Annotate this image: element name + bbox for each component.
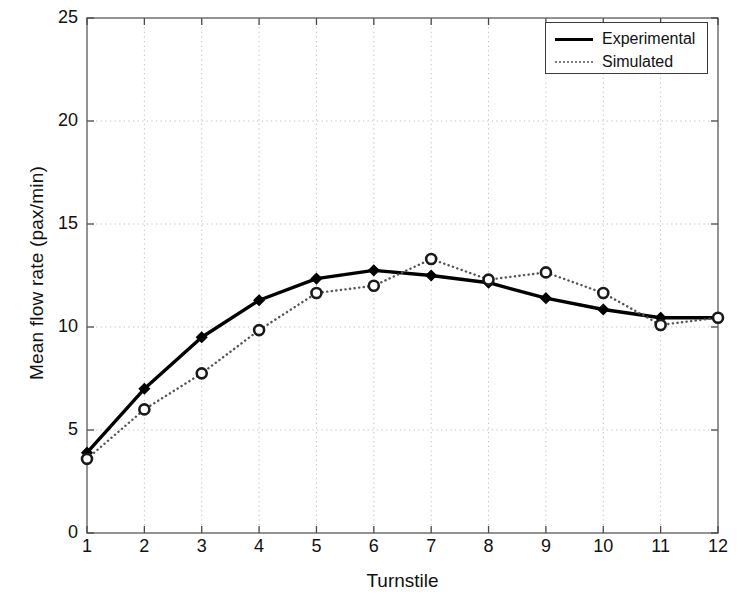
series-line-experimental (87, 270, 718, 452)
y-tick-label: 20 (38, 110, 78, 131)
y-tick-label: 5 (38, 419, 78, 440)
plot-area-container: 0510152025 123456789101112 Mean flow rat… (0, 0, 747, 604)
data-point-marker (426, 254, 436, 264)
x-axis-title: Turnstile (87, 570, 718, 592)
legend-item-experimental: Experimental (546, 27, 707, 50)
axes-frame (87, 18, 718, 533)
legend-item-simulated: Simulated (546, 50, 707, 73)
x-tick-label: 10 (583, 536, 623, 557)
data-point-marker (369, 265, 379, 275)
legend-label-experimental: Experimental (595, 30, 695, 48)
data-point-marker (139, 404, 149, 414)
x-tick-label: 9 (526, 536, 566, 557)
dotted-line-sample-icon (553, 56, 595, 68)
data-point-marker (598, 288, 608, 298)
data-point-marker (426, 270, 436, 280)
data-point-marker (369, 281, 379, 291)
gridlines (87, 18, 718, 533)
data-point-marker (541, 267, 551, 277)
x-tick-label: 4 (239, 536, 279, 557)
x-tick-label: 3 (182, 536, 222, 557)
data-point-marker (484, 275, 494, 285)
x-tick-label: 11 (641, 536, 681, 557)
y-tick-label: 25 (38, 7, 78, 28)
y-axis-title: Mean flow rate (pax/min) (26, 143, 48, 403)
data-point-marker (598, 304, 608, 314)
data-series-layer (82, 254, 723, 464)
legend-label-simulated: Simulated (595, 53, 673, 71)
axis-ticks (87, 18, 718, 533)
data-point-marker (82, 454, 92, 464)
plot-svg (0, 0, 747, 604)
x-tick-label: 1 (67, 536, 107, 557)
x-tick-label: 2 (124, 536, 164, 557)
x-tick-label: 12 (698, 536, 738, 557)
x-tick-label: 7 (411, 536, 451, 557)
data-point-marker (254, 325, 264, 335)
data-point-marker (656, 320, 666, 330)
data-point-marker (311, 288, 321, 298)
data-point-marker (541, 293, 551, 303)
chart-figure: 0510152025 123456789101112 Mean flow rat… (0, 0, 747, 604)
x-tick-label: 6 (354, 536, 394, 557)
legend-box: Experimental Simulated (545, 22, 708, 74)
data-point-marker (311, 273, 321, 283)
data-point-marker (197, 368, 207, 378)
x-tick-label: 8 (469, 536, 509, 557)
series-line-simulated (87, 259, 718, 459)
x-tick-label: 5 (296, 536, 336, 557)
data-point-marker (713, 313, 723, 323)
solid-line-sample-icon (553, 33, 595, 45)
